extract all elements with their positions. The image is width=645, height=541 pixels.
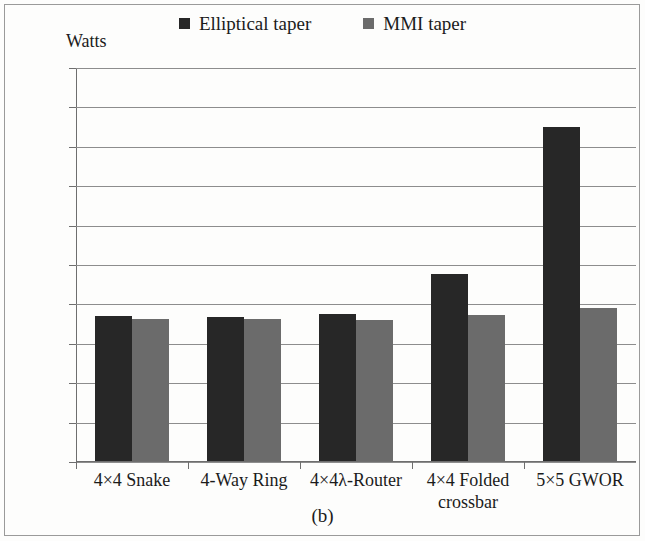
bar-group <box>412 68 524 462</box>
legend-label: MMI taper <box>383 14 466 33</box>
plot-area: 0.50.450.40.350.30.250.20.150.10.050 <box>76 68 636 462</box>
bar <box>580 308 617 462</box>
y-tick-mark <box>69 462 76 463</box>
x-axis-label-line: 4×4 Folded <box>406 470 530 492</box>
y-tick-mark <box>69 265 76 266</box>
square-swatch-icon <box>179 18 190 29</box>
bar <box>244 319 281 462</box>
x-axis-label-line: 4×4λ-Router <box>294 470 418 492</box>
x-axis-label: 5×5 GWOR <box>518 470 642 492</box>
y-tick-mark <box>69 344 76 345</box>
x-tick-mark <box>412 462 413 469</box>
square-swatch-icon <box>363 18 374 29</box>
x-tick-mark <box>76 462 77 469</box>
x-tick-mark <box>300 462 301 469</box>
x-axis-label-line: 4-Way Ring <box>182 470 306 492</box>
y-tick-mark <box>69 383 76 384</box>
bar <box>543 127 580 462</box>
x-axis-label-line: 5×5 GWOR <box>518 470 642 492</box>
legend-item-mmi-taper: MMI taper <box>363 14 466 33</box>
y-tick-mark <box>69 107 76 108</box>
x-axis-line <box>76 461 636 462</box>
gridline <box>76 462 636 463</box>
x-tick-mark <box>524 462 525 469</box>
legend-item-elliptical-taper: Elliptical taper <box>179 14 311 33</box>
x-axis-label-line: 4×4 Snake <box>70 470 194 492</box>
bar <box>95 316 132 462</box>
x-axis-label: 4×4 Snake <box>70 470 194 492</box>
figure-panel: Elliptical taper MMI taper Watts 0.50.45… <box>0 0 645 541</box>
bar <box>319 314 356 462</box>
bar <box>431 274 468 462</box>
bar-group <box>524 68 636 462</box>
y-tick-mark <box>69 186 76 187</box>
bar-group <box>300 68 412 462</box>
y-tick-mark <box>69 147 76 148</box>
figure-caption: (b) <box>0 505 645 527</box>
x-axis-label: 4×4λ-Router <box>294 470 418 492</box>
y-tick-mark <box>69 68 76 69</box>
bar-group <box>188 68 300 462</box>
bar <box>132 319 169 462</box>
y-tick-mark <box>69 423 76 424</box>
legend-label: Elliptical taper <box>199 14 311 33</box>
x-axis-label: 4-Way Ring <box>182 470 306 492</box>
bar-series-container <box>76 68 636 462</box>
bar <box>468 315 505 462</box>
bar <box>207 317 244 462</box>
x-tick-mark <box>188 462 189 469</box>
y-tick-mark <box>69 226 76 227</box>
y-tick-mark <box>69 304 76 305</box>
bar <box>356 320 393 462</box>
y-axis-title: Watts <box>66 31 107 52</box>
bar-group <box>76 68 188 462</box>
